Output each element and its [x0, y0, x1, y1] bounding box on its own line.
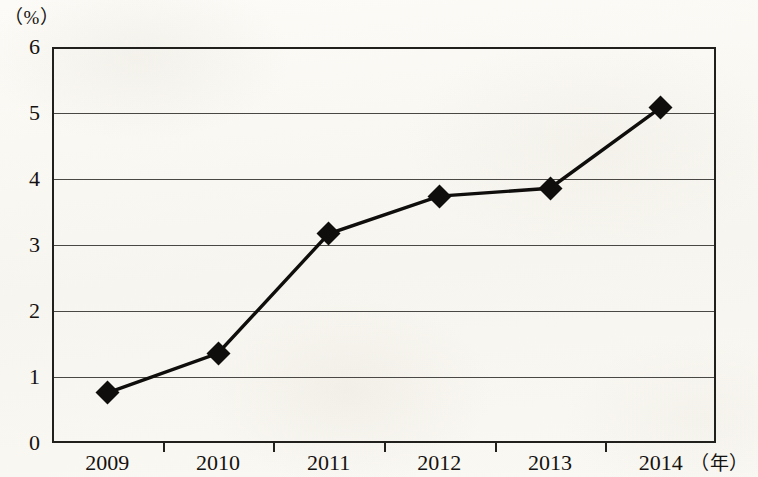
x-axis-tick-label: 2009: [47, 450, 167, 476]
x-axis-tick-label: 2012: [379, 450, 499, 476]
x-axis-tick-label: 2010: [158, 450, 278, 476]
y-axis-tick-label: 6: [0, 34, 40, 60]
y-axis-tick-label: 5: [0, 100, 40, 126]
y-axis-tick-label: 2: [0, 298, 40, 324]
x-axis-tick-label: 2013: [490, 450, 610, 476]
y-axis-tick-label: 0: [0, 430, 40, 456]
gridline: [54, 113, 714, 114]
y-axis-unit-label: （%）: [4, 2, 59, 29]
gridline: [54, 311, 714, 312]
x-axis-tick-label: 2011: [269, 450, 389, 476]
chart-figure: （%） （年） 0123456 200920102011201220132014: [0, 0, 758, 477]
gridline: [54, 377, 714, 378]
plot-area: [52, 47, 716, 443]
x-axis-tick-label: 2014: [601, 450, 721, 476]
gridline: [54, 245, 714, 246]
y-axis-tick-label: 1: [0, 364, 40, 390]
gridline: [54, 179, 714, 180]
y-axis-tick-label: 3: [0, 232, 40, 258]
y-axis-tick-label: 4: [0, 166, 40, 192]
